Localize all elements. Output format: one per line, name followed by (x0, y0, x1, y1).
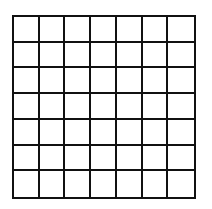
grid-cell (65, 17, 91, 43)
grid-cell (40, 17, 66, 43)
grid-cell (168, 120, 194, 146)
grid-cell (40, 146, 66, 172)
grid-cell (117, 43, 143, 69)
grid-cell (14, 120, 40, 146)
grid-cell (168, 43, 194, 69)
grid-cell (143, 17, 169, 43)
grid-cell (168, 146, 194, 172)
grid-cell (14, 146, 40, 172)
grid-cell (14, 17, 40, 43)
grid-cell (143, 94, 169, 120)
grid-cell (168, 68, 194, 94)
grid-cell (143, 171, 169, 197)
grid-cell (65, 43, 91, 69)
grid-cell (65, 94, 91, 120)
grid-cell (14, 43, 40, 69)
grid-cell (91, 146, 117, 172)
grid-cell (91, 17, 117, 43)
grid-cell (91, 120, 117, 146)
grid-cell (14, 94, 40, 120)
grid-cell (91, 68, 117, 94)
grid-cell (91, 94, 117, 120)
grid-cell (168, 17, 194, 43)
grid-cell (14, 171, 40, 197)
grid-cell (168, 94, 194, 120)
grid-cell (143, 43, 169, 69)
grid-cell (117, 171, 143, 197)
grid-cell (117, 120, 143, 146)
grid-cell (91, 171, 117, 197)
grid-cell (40, 120, 66, 146)
grid-cell (117, 146, 143, 172)
grid-cell (40, 68, 66, 94)
grid-cell (143, 146, 169, 172)
grid-cell (40, 94, 66, 120)
grid-cell (65, 146, 91, 172)
grid-cell (91, 43, 117, 69)
grid-cell (40, 171, 66, 197)
grid-cell (117, 68, 143, 94)
grid-cell (143, 120, 169, 146)
grid-cell (143, 68, 169, 94)
grid-cell (65, 68, 91, 94)
grid-cell (168, 171, 194, 197)
grid-diagram (12, 15, 196, 199)
grid-cell (117, 94, 143, 120)
grid-cell (65, 171, 91, 197)
grid-cell (117, 17, 143, 43)
grid-cell (14, 68, 40, 94)
grid-cell (65, 120, 91, 146)
grid-cell (40, 43, 66, 69)
